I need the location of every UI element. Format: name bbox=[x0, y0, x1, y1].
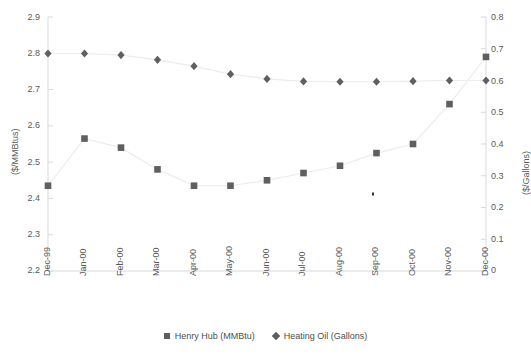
plot-area bbox=[48, 17, 486, 271]
chart-svg bbox=[48, 17, 486, 271]
chart-title-strip bbox=[0, 0, 531, 10]
x-axis-tick-label: Nov-00 bbox=[443, 247, 453, 276]
y-axis-tick-label: 2.5 bbox=[0, 158, 40, 167]
y-axis-tick-label: 2.6 bbox=[0, 121, 40, 130]
y2-axis-tick-label: 0.8 bbox=[491, 13, 531, 22]
diamond-marker-icon bbox=[271, 332, 279, 340]
legend-label: Heating Oil (Gallons) bbox=[284, 331, 368, 341]
y2-axis-tick-label: 0.6 bbox=[491, 77, 531, 86]
y-axis-tick-label: 2.2 bbox=[0, 266, 40, 275]
x-axis-tick-label: Feb-00 bbox=[115, 247, 125, 276]
y2-axis-tick-label: 0 bbox=[491, 266, 531, 275]
y-axis-title: ($/MMBtus) bbox=[10, 128, 20, 175]
x-axis-tick-label: Jun-00 bbox=[261, 248, 271, 276]
x-axis-tick-label: Jan-00 bbox=[78, 248, 88, 276]
x-axis-tick-label: Aug-00 bbox=[334, 247, 344, 276]
chart-legend: Henry Hub (MMBtu) Heating Oil (Gallons) bbox=[0, 331, 531, 341]
x-axis-tick-label: Dec-00 bbox=[480, 247, 490, 276]
x-axis-tick-label: Oct-00 bbox=[407, 249, 417, 276]
x-axis-tick-label: May-00 bbox=[224, 246, 234, 276]
x-axis-tick-label: Jul-00 bbox=[297, 251, 307, 276]
y2-axis-title: ($/Gallons) bbox=[521, 151, 531, 195]
x-axis-tick-label: Dec-99 bbox=[42, 247, 52, 276]
stray-dot-artifact bbox=[372, 193, 374, 196]
y2-axis-tick-label: 0.2 bbox=[491, 203, 531, 212]
y-axis-tick-label: 2.4 bbox=[0, 194, 40, 203]
y-axis-tick-label: 2.3 bbox=[0, 230, 40, 239]
series-markers bbox=[44, 49, 489, 189]
y-axis-tick-label: 2.8 bbox=[0, 49, 40, 58]
y-axis-tick-label: 2.9 bbox=[0, 13, 40, 22]
y2-axis-tick-label: 0.4 bbox=[491, 140, 531, 149]
x-axis-tick-label: Mar-00 bbox=[151, 247, 161, 276]
y-axis-tick-label: 2.7 bbox=[0, 85, 40, 94]
y2-axis-tick-label: 0.7 bbox=[491, 45, 531, 54]
y2-axis-tick-label: 0.5 bbox=[491, 108, 531, 117]
series-lines bbox=[48, 54, 486, 186]
y2-axis-tick-label: 0.1 bbox=[491, 235, 531, 244]
legend-item-heating-oil[interactable]: Heating Oil (Gallons) bbox=[273, 331, 368, 341]
legend-item-henry-hub[interactable]: Henry Hub (MMBtu) bbox=[164, 331, 255, 341]
x-axis-tick-label: Sep-00 bbox=[370, 247, 380, 276]
square-marker-icon bbox=[164, 333, 170, 339]
chart-container: 2.9 2.8 2.7 2.6 2.5 2.4 2.3 2.2 0.8 0.7 … bbox=[0, 0, 531, 354]
legend-label: Henry Hub (MMBtu) bbox=[175, 331, 255, 341]
x-axis-tick-label: Apr-00 bbox=[188, 249, 198, 276]
